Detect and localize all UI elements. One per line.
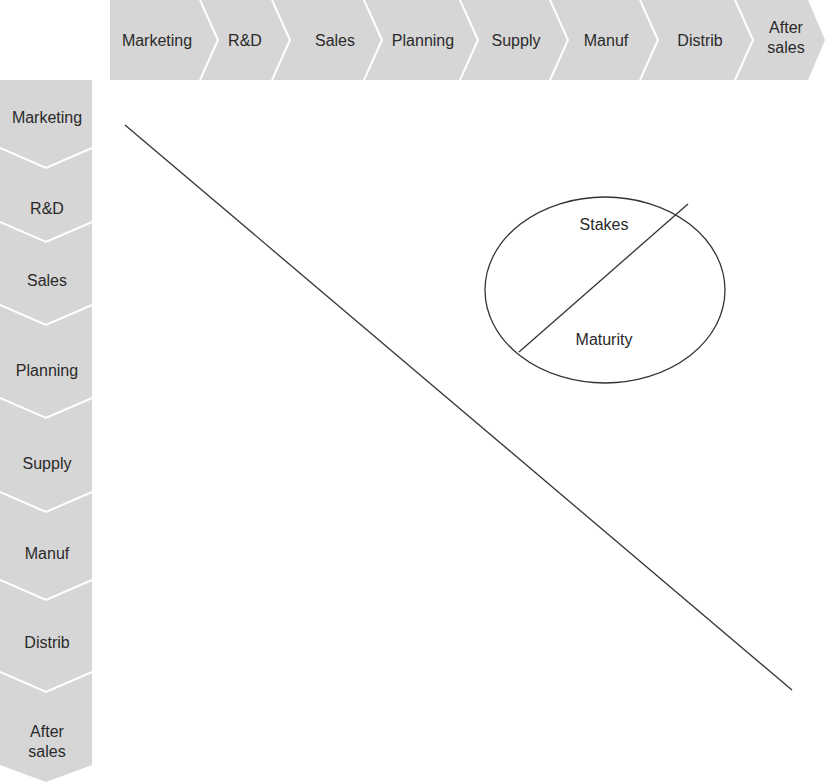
top-label-rnd: R&D xyxy=(228,32,262,49)
left-label-manuf: Manuf xyxy=(25,545,70,562)
top-value-chain-band: Marketing R&D Sales Planning Supply Manu… xyxy=(110,0,825,80)
left-label-rnd: R&D xyxy=(30,200,64,217)
left-label-distrib: Distrib xyxy=(24,634,69,651)
top-label-distrib: Distrib xyxy=(677,32,722,49)
left-label-after-sales-line1: After xyxy=(30,723,64,740)
top-label-after-sales-line2: sales xyxy=(767,39,804,56)
diagonal-line xyxy=(125,125,792,690)
left-label-marketing: Marketing xyxy=(12,109,82,126)
top-label-planning: Planning xyxy=(392,32,454,49)
left-band-background xyxy=(0,80,92,782)
left-value-chain-band: Marketing R&D Sales Planning Supply Manu… xyxy=(0,80,92,782)
left-label-supply: Supply xyxy=(23,455,72,472)
top-label-after-sales-line1: After xyxy=(769,19,803,36)
top-label-manuf: Manuf xyxy=(584,32,629,49)
stakes-maturity-legend: Stakes Maturity xyxy=(485,197,725,383)
value-chain-matrix-diagram: Marketing R&D Sales Planning Supply Manu… xyxy=(0,0,825,782)
legend-maturity-label: Maturity xyxy=(576,331,633,348)
left-label-planning: Planning xyxy=(16,362,78,379)
top-label-sales: Sales xyxy=(315,32,355,49)
legend-stakes-label: Stakes xyxy=(580,216,629,233)
left-label-after-sales-line2: sales xyxy=(28,743,65,760)
top-label-supply: Supply xyxy=(492,32,541,49)
top-label-marketing: Marketing xyxy=(122,32,192,49)
left-label-sales: Sales xyxy=(27,272,67,289)
